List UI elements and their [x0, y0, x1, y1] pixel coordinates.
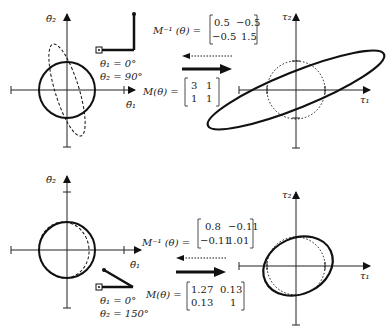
bottom-m-matrix: 1.27 0.13 0.13 1: [187, 282, 244, 310]
top-torque-y-label: τ₂: [282, 11, 292, 22]
bottom-torque-y-label: τ₂: [282, 189, 292, 200]
bottom-arrows: [176, 255, 226, 277]
bottom-accel-y-label: θ̈₂: [46, 174, 56, 185]
mass-matrix-diagram: θ̈₂ θ̈₁ θ₁ = 0° θ₂ = 90° M⁻¹ (θ) = 0.5 −…: [0, 0, 392, 335]
bottom-accel-x-label: θ̈₁: [130, 259, 140, 270]
top-m-matrix: 3 1 1 1: [185, 78, 219, 106]
svg-text:1: 1: [206, 93, 212, 104]
svg-text:0.13: 0.13: [191, 297, 213, 308]
svg-text:−0.5: −0.5: [212, 31, 236, 42]
top-m-label: M(θ) =: [142, 86, 179, 97]
bottom-minv-matrix: 0.8 −0.11 −0.11 1.01: [198, 219, 259, 248]
bottom-torque-x-label: τ₁: [360, 270, 370, 281]
top-torque-x-label: τ₁: [360, 94, 370, 105]
svg-text:1.01: 1.01: [227, 235, 249, 246]
top-minv-matrix: 0.5 −0.5 −0.5 1.5: [210, 15, 260, 44]
bottom-m-label: M(θ) =: [145, 289, 182, 300]
bottom-arm-end-effector-icon: [102, 268, 106, 272]
bottom-torque-axes: [239, 192, 370, 325]
svg-text:1: 1: [230, 297, 236, 308]
top-arm-sketch: [100, 14, 134, 50]
svg-text:0.8: 0.8: [205, 221, 221, 232]
svg-text:1.5: 1.5: [241, 31, 257, 42]
svg-text:0.5: 0.5: [214, 17, 230, 28]
svg-text:−0.11: −0.11: [228, 221, 259, 232]
svg-text:0.13: 0.13: [220, 284, 242, 295]
diagram-canvas: θ̈₂ θ̈₁ θ₁ = 0° θ₂ = 90° M⁻¹ (θ) = 0.5 −…: [0, 0, 392, 335]
top-arm-end-effector-icon: [132, 12, 136, 16]
svg-text:−0.5: −0.5: [236, 17, 260, 28]
top-theta2: θ₂ = 90°: [100, 71, 143, 82]
bottom-theta1: θ₁ = 0°: [100, 295, 136, 306]
top-theta1: θ₁ = 0°: [100, 58, 136, 69]
top-accel-y-label: θ̈₂: [46, 13, 56, 24]
svg-text:3: 3: [191, 80, 197, 91]
svg-text:1: 1: [191, 93, 197, 104]
bottom-arm-sketch: [100, 270, 133, 287]
bottom-minv-label: M⁻¹ (θ) =: [141, 237, 190, 248]
bottom-theta2: θ₂ = 150°: [100, 308, 149, 319]
top-accel-x-label: θ̈₁: [126, 99, 136, 110]
svg-text:1.27: 1.27: [191, 284, 213, 295]
top-arrows: [182, 53, 232, 74]
top-minv-label: M⁻¹ (θ) =: [152, 25, 201, 36]
top-torque-axes: [239, 14, 370, 148]
svg-text:1: 1: [206, 80, 212, 91]
